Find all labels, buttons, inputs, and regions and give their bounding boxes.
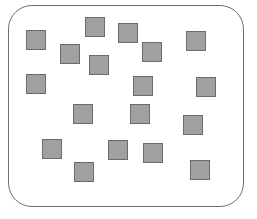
particle-square [118, 23, 138, 43]
particle-square [186, 31, 206, 51]
particle-square [73, 104, 93, 124]
particle-square [26, 30, 46, 50]
particle-square [89, 55, 109, 75]
figure-canvas [0, 0, 257, 219]
particle-square [190, 160, 210, 180]
particle-square [142, 42, 162, 62]
particle-square [74, 162, 94, 182]
particle-square [130, 104, 150, 124]
particle-square [183, 115, 203, 135]
particle-square [60, 44, 80, 64]
particle-square [42, 139, 62, 159]
particle-square [85, 17, 105, 37]
particle-square [196, 77, 216, 97]
particle-square [108, 140, 128, 160]
particle-square [133, 76, 153, 96]
particle-square [26, 74, 46, 94]
particle-square [143, 143, 163, 163]
